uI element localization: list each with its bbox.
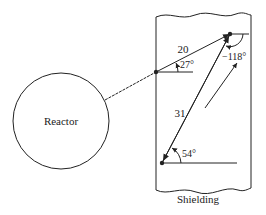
vector-31-label: 31 [175,107,186,119]
direction-arrow [205,63,237,108]
angle-27-label: 27° [180,59,194,70]
angle-118-label: −118° [222,51,246,62]
vector-20-label: 20 [178,43,190,55]
shielding-label: Shielding [177,193,220,205]
angle-54-label: 54° [182,148,196,159]
vector-resultant [163,34,230,161]
diagram-canvas: Reactor Shielding 20 27° 31 54° −118° [0,0,266,215]
shielding-block [156,13,251,194]
reactor-to-shield-line [105,72,156,100]
angle-arc-27 [176,63,178,72]
reactor-label: Reactor [44,115,79,127]
angle-arc-54 [172,148,181,163]
